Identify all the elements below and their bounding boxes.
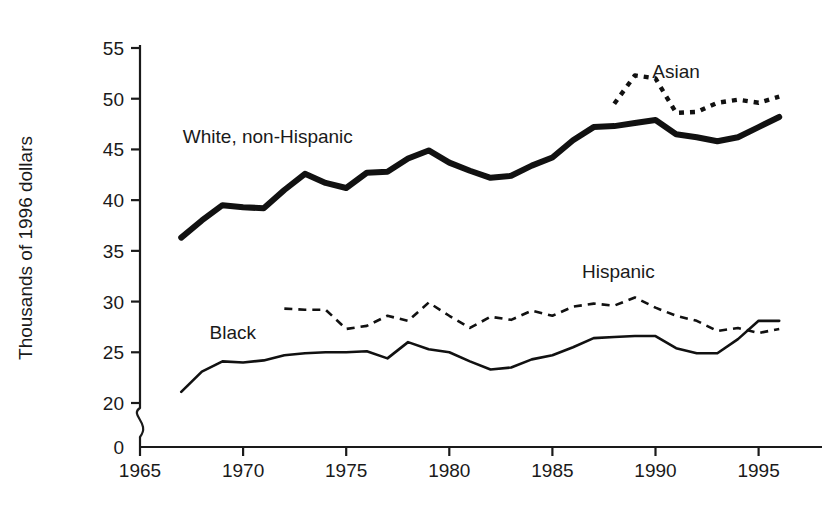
series-annotation-labels: White, non-HispanicAsianHispanicBlack — [183, 61, 700, 343]
y-axis-tick-label: 30 — [103, 292, 124, 313]
y-axis-tick-label: 40 — [103, 190, 124, 211]
y-axis-tick-label: 45 — [103, 139, 124, 160]
y-axis-tick-label: 0 — [113, 437, 124, 458]
y-axis-title: Thousands of 1996 dollars — [15, 136, 36, 360]
y-axis-tick-label: 35 — [103, 241, 124, 262]
axis-break-icon — [137, 408, 143, 437]
y-axis-tick-label: 20 — [103, 393, 124, 414]
series-lines-group — [181, 75, 779, 391]
y-axis-tick-label: 25 — [103, 342, 124, 363]
x-axis-tick-label: 1985 — [531, 460, 573, 481]
x-axis-tick-label: 1975 — [325, 460, 367, 481]
chart-container: Thousands of 1996 dollars 02025303540455… — [0, 0, 831, 507]
series-line-black — [181, 321, 779, 392]
x-axis-tick-labels: 1965197019751980198519901995 — [119, 460, 780, 481]
x-axis-tick-label: 1980 — [428, 460, 470, 481]
y-axis-tick-label: 55 — [103, 38, 124, 59]
series-label-hispanic: Hispanic — [582, 261, 655, 282]
x-axis-tick-label: 1995 — [737, 460, 779, 481]
y-axis-tick-label: 50 — [103, 89, 124, 110]
axes-group — [131, 45, 822, 456]
y-axis-tick-labels: 02025303540455055 — [103, 38, 124, 458]
income-by-race-line-chart: Thousands of 1996 dollars 02025303540455… — [0, 0, 831, 507]
series-label-asian: Asian — [652, 61, 700, 82]
y-axis-title-group: Thousands of 1996 dollars — [15, 136, 36, 360]
y-axis-ticks — [131, 48, 140, 403]
series-label-black: Black — [210, 322, 257, 343]
x-axis-tick-label: 1965 — [119, 460, 161, 481]
x-axis-tick-label: 1990 — [634, 460, 676, 481]
series-label-white-non-hispanic: White, non-Hispanic — [183, 126, 353, 147]
x-axis-ticks — [140, 447, 759, 456]
series-line-hispanic — [284, 298, 779, 334]
x-axis-tick-label: 1970 — [222, 460, 264, 481]
